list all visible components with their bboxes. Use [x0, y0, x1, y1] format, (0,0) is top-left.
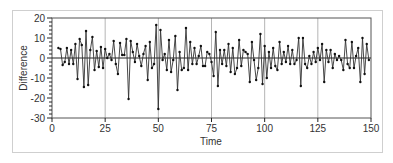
data-point [321, 43, 323, 45]
vertical-grid-lines [105, 18, 318, 118]
data-point [170, 71, 172, 73]
x-tick-label: 100 [256, 123, 273, 134]
data-point [215, 31, 217, 33]
data-point [166, 69, 168, 71]
data-point [59, 48, 61, 50]
data-point [106, 57, 108, 59]
data-point [340, 59, 342, 61]
data-point [202, 65, 204, 67]
x-tick-label: 75 [206, 123, 218, 134]
data-point [153, 63, 155, 65]
data-point [270, 67, 272, 69]
data-point [238, 39, 240, 41]
data-point [189, 41, 191, 43]
data-point [140, 65, 142, 67]
data-point [104, 48, 106, 50]
data-point [98, 66, 100, 68]
data-point [368, 59, 370, 61]
data-point [283, 51, 285, 53]
data-point [217, 85, 219, 87]
data-point [125, 38, 127, 40]
data-point [61, 64, 63, 66]
data-point [357, 47, 359, 49]
data-point [117, 73, 119, 75]
data-point [89, 49, 91, 51]
data-point [327, 61, 329, 63]
data-point [64, 61, 66, 63]
data-point [161, 59, 163, 61]
data-point [129, 40, 131, 42]
data-point [72, 63, 74, 65]
data-point [181, 69, 183, 71]
data-point [268, 51, 270, 53]
data-point [85, 30, 87, 32]
data-point [149, 41, 151, 43]
data-point [263, 45, 265, 47]
data-point [93, 69, 95, 71]
data-point [132, 51, 134, 53]
data-point [257, 67, 259, 69]
data-point [229, 71, 231, 73]
data-point [261, 83, 263, 85]
data-point [280, 63, 282, 65]
data-point [295, 59, 297, 61]
data-point [178, 51, 180, 53]
data-point [297, 37, 299, 39]
data-point [212, 75, 214, 77]
y-tick-label: -10 [31, 73, 46, 84]
x-tick-label: 25 [100, 123, 112, 134]
data-point [225, 65, 227, 67]
x-tick-label: 125 [309, 123, 326, 134]
data-point [221, 63, 223, 65]
data-point [172, 59, 174, 61]
data-point [349, 67, 351, 69]
data-point [366, 43, 368, 45]
data-point [142, 53, 144, 55]
data-point [310, 63, 312, 65]
data-point [115, 63, 117, 65]
data-point [363, 73, 365, 75]
data-point [338, 55, 340, 57]
data-point [210, 61, 212, 63]
data-point [249, 81, 251, 83]
data-point [353, 67, 355, 69]
data-point [78, 38, 80, 40]
data-point [76, 78, 78, 80]
x-tick-label: 150 [363, 123, 380, 134]
data-point [287, 45, 289, 47]
data-point [185, 27, 187, 29]
data-point [68, 63, 70, 65]
data-point [134, 61, 136, 63]
data-point [127, 98, 129, 100]
data-point [342, 69, 344, 71]
data-point [291, 49, 293, 51]
data-point [95, 50, 97, 52]
data-series [57, 24, 370, 110]
y-axis-title: Difference [18, 45, 29, 91]
data-point [74, 43, 76, 45]
data-point [100, 46, 102, 48]
data-point [204, 65, 206, 67]
data-point [108, 53, 110, 55]
y-tick-label: 20 [34, 13, 46, 24]
data-point [91, 36, 93, 38]
data-point [151, 67, 153, 69]
data-point [121, 54, 123, 56]
data-point [289, 63, 291, 65]
data-point [102, 67, 104, 69]
data-point [234, 73, 236, 75]
data-point [155, 24, 157, 26]
data-point [315, 61, 317, 63]
data-point [193, 47, 195, 49]
data-point [278, 41, 280, 43]
data-point [66, 47, 68, 49]
data-point [191, 63, 193, 65]
x-tick-label: 50 [153, 123, 165, 134]
data-point [329, 49, 331, 51]
data-point [164, 53, 166, 55]
data-point [302, 37, 304, 39]
data-point [325, 49, 327, 51]
data-point [232, 47, 234, 49]
data-point [346, 63, 348, 65]
data-point [300, 85, 302, 87]
